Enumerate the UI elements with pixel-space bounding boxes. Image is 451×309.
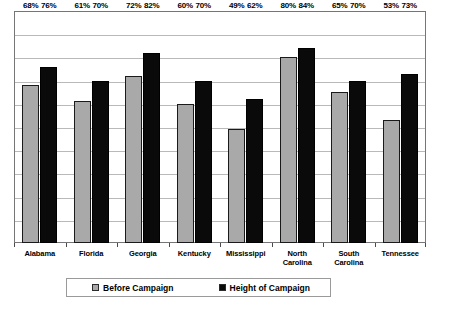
bar[interactable]: 76%: [40, 67, 57, 243]
bar-wrap: 68%: [22, 11, 39, 243]
x-axis-tick: [375, 243, 376, 247]
legend-item-height-of-campaign: Height of Campaign: [199, 283, 331, 293]
legend-label-before-campaign: Before Campaign: [103, 283, 173, 293]
bar-value-label: 62%: [247, 1, 262, 10]
bar-group: 60%70%: [169, 11, 221, 243]
x-axis-tick: [323, 243, 324, 247]
bar[interactable]: 80%: [280, 57, 297, 243]
bar-value-label: 65%: [332, 1, 347, 10]
bar-chart: 68%76%61%70%72%82%60%70%49%62%80%84%65%7…: [0, 0, 451, 309]
bar-value-label: 68%: [23, 1, 38, 10]
bar[interactable]: 70%: [195, 81, 212, 243]
x-axis-category-label: Mississippi: [220, 249, 272, 267]
bar-group: 65%70%: [323, 11, 375, 243]
bar-value-label: 84%: [299, 1, 314, 10]
bar-wrap: 49%: [228, 11, 245, 243]
bar[interactable]: 53%: [383, 120, 400, 243]
bar-group: 68%76%: [14, 11, 66, 243]
bar-value-label: 80%: [281, 1, 296, 10]
bar-wrap: 73%: [401, 11, 418, 243]
bar-value-label: 82%: [144, 1, 159, 10]
bar-value-label: 73%: [402, 1, 417, 10]
x-axis-tick: [272, 243, 273, 247]
x-axis-category-label: Kentucky: [169, 249, 221, 267]
bar-value-label: 70%: [350, 1, 365, 10]
bar-wrap: 76%: [40, 11, 57, 243]
bar-wrap: 70%: [92, 11, 109, 243]
x-axis-category-label: Alabama: [14, 249, 66, 267]
bar-wrap: 70%: [349, 11, 366, 243]
legend-swatch-gray-icon: [92, 284, 99, 291]
x-axis-category-label: Tennessee: [375, 249, 427, 267]
bar[interactable]: 61%: [74, 101, 91, 243]
bar-group: 80%84%: [272, 11, 324, 243]
x-axis-tick: [425, 243, 426, 247]
bar[interactable]: 84%: [298, 48, 315, 243]
bar[interactable]: 60%: [177, 104, 194, 243]
x-axis-category-label: Florida: [66, 249, 118, 267]
bar-group: 61%70%: [66, 11, 118, 243]
bar-wrap: 60%: [177, 11, 194, 243]
legend: Before Campaign Height of Campaign: [66, 278, 331, 297]
bar-value-label: 76%: [41, 1, 56, 10]
bar-wrap: 62%: [246, 11, 263, 243]
bar-value-label: 61%: [75, 1, 90, 10]
bar-wrap: 80%: [280, 11, 297, 243]
bar-wrap: 65%: [331, 11, 348, 243]
bar[interactable]: 70%: [92, 81, 109, 243]
bar[interactable]: 72%: [125, 76, 142, 243]
bar-value-label: 70%: [196, 1, 211, 10]
bar-wrap: 61%: [74, 11, 91, 243]
legend-item-before-campaign: Before Campaign: [67, 283, 199, 293]
x-axis-ticks: [14, 243, 426, 248]
x-axis-category-labels: AlabamaFloridaGeorgiaKentuckyMississippi…: [14, 249, 426, 267]
x-axis-tick: [169, 243, 170, 247]
bar-group: 49%62%: [220, 11, 272, 243]
bar-value-label: 60%: [178, 1, 193, 10]
bar[interactable]: 73%: [401, 74, 418, 243]
bar[interactable]: 70%: [349, 81, 366, 243]
bar-value-label: 72%: [126, 1, 141, 10]
x-axis-tick: [117, 243, 118, 247]
bar-wrap: 53%: [383, 11, 400, 243]
x-axis-tick: [66, 243, 67, 247]
x-axis-category-label: SouthCarolina: [323, 249, 375, 267]
bar-value-label: 70%: [93, 1, 108, 10]
bar[interactable]: 82%: [143, 53, 160, 243]
bar-value-label: 53%: [384, 1, 399, 10]
bar[interactable]: 49%: [228, 129, 245, 243]
bar-wrap: 82%: [143, 11, 160, 243]
bar-wrap: 84%: [298, 11, 315, 243]
legend-swatch-black-icon: [219, 284, 226, 291]
bars-layer: 68%76%61%70%72%82%60%70%49%62%80%84%65%7…: [14, 11, 426, 243]
bar[interactable]: 65%: [331, 92, 348, 243]
bar-group: 53%73%: [375, 11, 427, 243]
x-axis-category-label: NorthCarolina: [272, 249, 324, 267]
bar-wrap: 70%: [195, 11, 212, 243]
x-axis-tick: [14, 243, 15, 247]
x-axis-category-label: Georgia: [117, 249, 169, 267]
bar[interactable]: 68%: [22, 85, 39, 243]
bar-value-label: 49%: [229, 1, 244, 10]
bar[interactable]: 62%: [246, 99, 263, 243]
x-axis-tick: [220, 243, 221, 247]
bar-wrap: 72%: [125, 11, 142, 243]
legend-label-height-of-campaign: Height of Campaign: [230, 283, 310, 293]
bar-group: 72%82%: [117, 11, 169, 243]
